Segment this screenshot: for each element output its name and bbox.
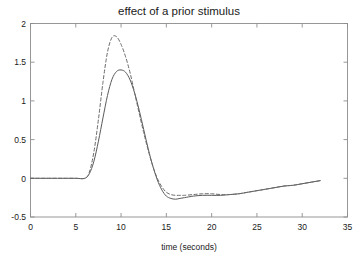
x-tick-label: 20 [207, 222, 217, 232]
x-axis-label: time (seconds) [161, 242, 217, 252]
y-tick-label: 0 [21, 174, 26, 184]
y-axis-ticks [31, 24, 348, 218]
y-tick-label: 2 [21, 19, 26, 29]
figure-container: effect of a prior stimulus 0510152025303… [0, 0, 360, 258]
y-axis-tick-labels: 21.510.50-0.5 [11, 19, 26, 223]
x-tick-label: 30 [297, 222, 307, 232]
x-tick-label: 15 [162, 222, 172, 232]
x-tick-label: 35 [343, 222, 353, 232]
x-tick-label: 25 [252, 222, 262, 232]
series-line-solid [31, 70, 321, 199]
series-line-dashed [31, 36, 321, 196]
x-axis-ticks [31, 24, 348, 218]
x-axis-tick-labels: 05101520253035 [28, 222, 352, 232]
x-tick-label: 5 [73, 222, 78, 232]
chart-title: effect of a prior stimulus [118, 5, 240, 17]
chart-canvas: effect of a prior stimulus 0510152025303… [0, 0, 360, 258]
axes-frame [31, 24, 348, 218]
y-tick-label: 1.5 [14, 57, 26, 67]
y-tick-label: 0.5 [14, 135, 26, 145]
x-tick-label: 10 [116, 222, 126, 232]
x-tick-label: 0 [28, 222, 33, 232]
y-tick-label: -0.5 [11, 212, 26, 222]
y-tick-label: 1 [21, 96, 26, 106]
